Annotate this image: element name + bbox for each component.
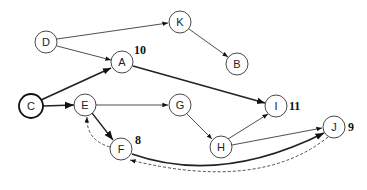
node-f-label: F: [118, 143, 125, 155]
graph-canvas: D K A B C E G I: [0, 0, 367, 190]
node-a[interactable]: A: [111, 51, 133, 73]
edge-d-a: [57, 46, 111, 60]
edge-c-e: [43, 105, 74, 106]
node-g[interactable]: G: [169, 94, 191, 116]
node-c-label: C: [27, 100, 35, 112]
edge-g-h: [187, 114, 212, 139]
node-h[interactable]: H: [210, 136, 232, 158]
node-b-label: B: [233, 58, 240, 70]
node-i[interactable]: I: [265, 95, 287, 117]
node-c[interactable]: C: [19, 94, 43, 118]
edge-h-j: [232, 128, 322, 145]
node-j-label: J: [331, 121, 337, 133]
node-b[interactable]: B: [226, 53, 248, 75]
edge-k-b: [189, 29, 228, 57]
node-g-label: G: [176, 99, 185, 111]
node-e[interactable]: E: [74, 94, 96, 116]
node-k[interactable]: K: [169, 11, 191, 33]
node-k-label: K: [176, 16, 184, 28]
node-f[interactable]: F: [110, 138, 132, 160]
node-i-label: I: [274, 100, 277, 112]
weight-j: 9: [348, 120, 354, 134]
weight-a: 10: [134, 43, 146, 57]
nodes: D K A B C E G I: [19, 11, 345, 160]
node-e-label: E: [81, 99, 88, 111]
edge-d-k: [57, 23, 168, 39]
weight-i: 11: [289, 99, 300, 113]
node-a-label: A: [118, 56, 126, 68]
edge-e-f: [92, 113, 113, 140]
weight-f: 8: [135, 133, 141, 147]
node-h-label: H: [217, 141, 225, 153]
edge-h-i: [228, 114, 268, 139]
node-d[interactable]: D: [35, 31, 57, 53]
node-j[interactable]: J: [323, 116, 345, 138]
node-d-label: D: [42, 36, 50, 48]
edge-c-a: [41, 68, 111, 100]
